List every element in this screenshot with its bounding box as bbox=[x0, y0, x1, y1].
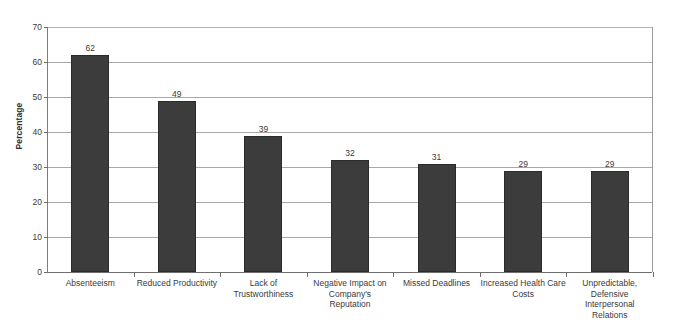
x-tick-mark bbox=[480, 272, 481, 277]
bar bbox=[504, 171, 542, 273]
x-tick-mark bbox=[220, 272, 221, 277]
x-tick-mark bbox=[393, 272, 394, 277]
bar bbox=[71, 55, 109, 272]
y-tick-mark-10 bbox=[44, 237, 48, 238]
x-label-line: Relations bbox=[566, 310, 653, 321]
x-axis-category-label: Unpredictable,DefensiveInterpersonalRela… bbox=[566, 278, 653, 320]
x-label-line: Unpredictable, bbox=[566, 278, 653, 289]
x-label-line: Reduced Productivity bbox=[134, 278, 221, 289]
x-label-line: Missed Deadlines bbox=[393, 278, 480, 289]
x-axis-category-label: Lack ofTrustworthiness bbox=[220, 278, 307, 299]
x-axis-category-label: Negative Impact onCompany'sReputation bbox=[307, 278, 394, 310]
x-tick-mark bbox=[134, 272, 135, 277]
x-tick-mark bbox=[307, 272, 308, 277]
x-tick-mark bbox=[566, 272, 567, 277]
x-label-line: Absenteeism bbox=[47, 278, 134, 289]
y-tick-mark-60 bbox=[44, 62, 48, 63]
bar-value-label: 31 bbox=[412, 152, 462, 162]
x-label-line: Costs bbox=[480, 289, 567, 300]
y-tick-label-20: 20 bbox=[16, 197, 42, 207]
y-tick-mark-30 bbox=[44, 167, 48, 168]
y-tick-mark-70 bbox=[44, 27, 48, 28]
bar-chart: Percentage 010203040506070 6249393231292… bbox=[0, 0, 673, 336]
bar bbox=[244, 136, 282, 273]
y-tick-mark-50 bbox=[44, 97, 48, 98]
x-axis-category-label: Absenteeism bbox=[47, 278, 134, 289]
y-tick-mark-0 bbox=[44, 272, 48, 273]
x-axis-category-label: Increased Health CareCosts bbox=[480, 278, 567, 299]
gridline-70 bbox=[48, 27, 652, 28]
gridline-50 bbox=[48, 97, 652, 98]
gridline-60 bbox=[48, 62, 652, 63]
y-tick-label-50: 50 bbox=[16, 92, 42, 102]
y-tick-label-30: 30 bbox=[16, 162, 42, 172]
x-label-line: Increased Health Care bbox=[480, 278, 567, 289]
bar-value-label: 29 bbox=[498, 159, 548, 169]
bar bbox=[331, 160, 369, 272]
bar-value-label: 39 bbox=[238, 124, 288, 134]
y-tick-mark-40 bbox=[44, 132, 48, 133]
x-label-line: Defensive bbox=[566, 289, 653, 300]
bar bbox=[418, 164, 456, 273]
y-tick-mark-20 bbox=[44, 202, 48, 203]
x-label-line: Reputation bbox=[307, 299, 394, 310]
gridline-0 bbox=[48, 272, 652, 273]
x-label-line: Company's bbox=[307, 289, 394, 300]
y-tick-label-70: 70 bbox=[16, 22, 42, 32]
bar bbox=[591, 171, 629, 273]
x-tick-mark bbox=[653, 272, 654, 277]
y-tick-label-60: 60 bbox=[16, 57, 42, 67]
x-label-line: Lack of bbox=[220, 278, 307, 289]
gridline-40 bbox=[48, 132, 652, 133]
bar-value-label: 29 bbox=[585, 159, 635, 169]
x-label-line: Trustworthiness bbox=[220, 289, 307, 300]
x-axis-category-label: Missed Deadlines bbox=[393, 278, 480, 289]
bar-value-label: 49 bbox=[152, 89, 202, 99]
bar-value-label: 32 bbox=[325, 148, 375, 158]
bar bbox=[158, 101, 196, 273]
x-label-line: Interpersonal bbox=[566, 299, 653, 310]
y-tick-label-10: 10 bbox=[16, 232, 42, 242]
bar-value-label: 62 bbox=[65, 43, 115, 53]
x-label-line: Negative Impact on bbox=[307, 278, 394, 289]
y-tick-label-0: 0 bbox=[16, 267, 42, 277]
y-tick-label-40: 40 bbox=[16, 127, 42, 137]
x-axis-category-label: Reduced Productivity bbox=[134, 278, 221, 289]
